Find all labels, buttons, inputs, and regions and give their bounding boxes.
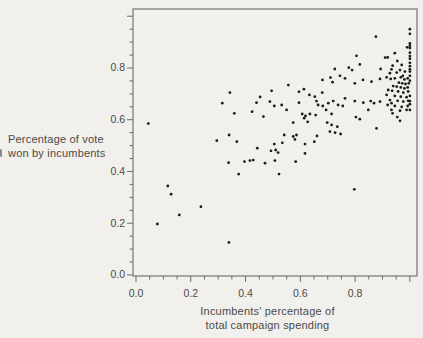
data-point — [156, 223, 159, 226]
data-point — [283, 134, 286, 137]
data-point — [229, 91, 232, 94]
data-point — [329, 76, 332, 79]
data-point — [409, 57, 412, 60]
data-point — [409, 100, 412, 103]
data-point — [402, 100, 405, 103]
data-point — [404, 83, 407, 86]
data-point — [256, 147, 259, 150]
data-point — [399, 119, 402, 122]
plot-frame — [133, 9, 417, 276]
x-axis-title: Incumbents' percentage of total campaign… — [160, 305, 375, 332]
data-point — [306, 120, 309, 123]
data-point — [278, 173, 281, 176]
data-point — [274, 149, 277, 152]
data-point — [237, 173, 240, 176]
data-point — [406, 46, 409, 49]
data-point — [274, 159, 277, 162]
data-point — [386, 56, 389, 59]
y-tick-label: 0.0 — [110, 268, 125, 280]
scatter-plot: 0.00.20.40.60.80.00.20.40.60.8 — [0, 0, 423, 338]
data-point — [281, 141, 284, 144]
data-point — [404, 70, 407, 73]
data-point — [287, 84, 290, 87]
data-point — [314, 114, 317, 117]
data-point — [405, 109, 408, 112]
data-point — [292, 135, 295, 138]
data-point — [399, 86, 402, 89]
data-point — [396, 99, 399, 102]
data-point — [277, 151, 280, 154]
data-point — [327, 102, 330, 105]
data-point — [233, 112, 236, 115]
y-tick-label: 0.8 — [110, 61, 125, 73]
y-axis-title-line1: Percentage of vote — [8, 133, 128, 147]
data-point — [313, 140, 316, 143]
data-point — [358, 63, 361, 66]
data-point — [389, 72, 392, 75]
x-axis-title-line2: total campaign spending — [160, 319, 375, 333]
data-point — [330, 124, 333, 127]
data-point — [228, 241, 231, 244]
data-point — [292, 121, 295, 124]
data-point — [326, 121, 329, 124]
data-point — [337, 104, 340, 107]
data-point — [262, 115, 265, 118]
data-point — [200, 205, 203, 208]
data-point — [353, 100, 356, 103]
data-point — [407, 90, 410, 93]
data-point — [400, 64, 403, 67]
data-point — [298, 90, 301, 93]
data-point — [330, 113, 333, 116]
data-point — [391, 89, 394, 92]
data-point — [178, 214, 181, 217]
data-point — [392, 85, 395, 88]
data-point — [243, 160, 246, 163]
data-point — [393, 77, 396, 80]
data-point — [386, 104, 389, 107]
data-point — [409, 44, 412, 47]
data-point — [294, 138, 297, 141]
data-point — [390, 68, 393, 71]
data-point — [362, 101, 365, 104]
data-point — [406, 105, 409, 108]
figure: 0.00.20.40.60.80.00.20.40.60.8 Percentag… — [0, 0, 423, 338]
data-point — [309, 113, 312, 116]
data-point — [391, 112, 394, 115]
data-point — [344, 77, 347, 80]
data-point — [325, 109, 328, 112]
data-point — [391, 64, 394, 67]
data-point — [393, 95, 396, 98]
data-point — [409, 95, 412, 98]
data-point — [395, 71, 398, 74]
data-point — [321, 105, 324, 108]
x-tick-label: 0.8 — [348, 287, 363, 299]
data-point — [409, 109, 412, 112]
data-point — [339, 133, 342, 136]
data-point — [389, 99, 392, 102]
data-point — [273, 105, 276, 108]
data-point — [294, 160, 297, 163]
data-point — [409, 103, 412, 106]
data-point — [406, 77, 409, 80]
data-point — [397, 90, 400, 93]
data-point — [308, 94, 311, 97]
data-point — [375, 35, 378, 38]
data-point — [321, 79, 324, 82]
data-point — [369, 100, 372, 103]
data-point — [252, 159, 255, 162]
data-point — [251, 110, 254, 113]
y-axis-title-line2: won by incumbents — [8, 147, 128, 161]
data-point — [170, 193, 173, 196]
data-point — [409, 28, 412, 31]
data-point — [409, 74, 412, 77]
data-point — [407, 82, 410, 85]
data-point — [298, 101, 301, 104]
data-point — [390, 109, 393, 112]
y-tick-label: 0.2 — [110, 217, 125, 229]
data-point — [249, 159, 252, 162]
data-point — [316, 135, 319, 138]
data-point — [370, 80, 373, 83]
data-point — [332, 100, 335, 103]
data-point — [405, 96, 408, 99]
data-point — [228, 134, 231, 137]
